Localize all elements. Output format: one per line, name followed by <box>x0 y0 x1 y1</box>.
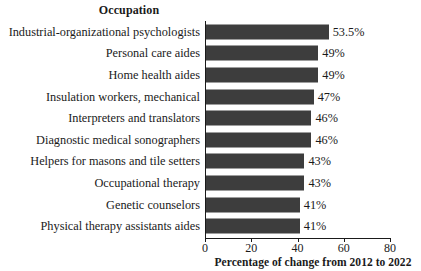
bar-track <box>205 111 311 126</box>
bar-row: Home health aides49% <box>0 64 421 86</box>
bar-row: Industrial-organizational psychologists5… <box>0 21 421 43</box>
category-label: Occupational therapy <box>94 177 200 189</box>
category-label: Genetic counselors <box>106 198 200 210</box>
bar-value-label: 41% <box>304 198 327 210</box>
category-label: Diagnostic medical sonographers <box>36 134 200 146</box>
bar <box>205 89 314 104</box>
y-axis-line <box>205 21 206 238</box>
bar-track <box>205 24 329 39</box>
bar-track <box>205 67 318 82</box>
bar-value-label: 47% <box>318 90 341 102</box>
bar-value-label: 49% <box>322 69 345 81</box>
x-axis-tick-label: 40 <box>292 242 304 254</box>
bar-track <box>205 175 304 190</box>
category-label: Physical therapy assistants aides <box>41 220 201 232</box>
category-label: Industrial-organizational psychologists <box>9 26 200 38</box>
bar-value-label: 46% <box>315 112 338 124</box>
category-label: Interpreters and translators <box>68 112 200 124</box>
bar-value-label: 43% <box>308 155 331 167</box>
bar-track <box>205 132 311 147</box>
bar-row: Personal care aides49% <box>0 43 421 65</box>
bar-row: Insulation workers, mechanical47% <box>0 86 421 108</box>
bar-value-label: 49% <box>322 47 345 59</box>
x-axis-tick-label: 0 <box>202 242 208 254</box>
bar <box>205 197 300 212</box>
bar-value-label: 46% <box>315 134 338 146</box>
column-header-occupation: Occupation <box>0 3 258 18</box>
category-label: Helpers for masons and tile setters <box>30 155 200 167</box>
bar-row: Helpers for masons and tile setters43% <box>0 151 421 173</box>
category-label: Personal care aides <box>106 47 200 59</box>
bar <box>205 111 311 126</box>
bar <box>205 46 318 61</box>
plot-area: Industrial-organizational psychologists5… <box>0 21 421 238</box>
x-axis-tick-label: 20 <box>245 242 257 254</box>
bar-row: Genetic counselors41% <box>0 194 421 216</box>
bar-row: Diagnostic medical sonographers46% <box>0 129 421 151</box>
bar <box>205 24 329 39</box>
bar-track <box>205 154 304 169</box>
bar <box>205 154 304 169</box>
x-axis-tick-label: 80 <box>384 242 396 254</box>
bar-row: Interpreters and translators46% <box>0 107 421 129</box>
bar-track <box>205 46 318 61</box>
category-label: Home health aides <box>108 69 200 81</box>
bar <box>205 67 318 82</box>
bar-chart: Occupation Industrial-organizational psy… <box>0 0 421 271</box>
bar-track <box>205 89 314 104</box>
bar-value-label: 43% <box>308 177 331 189</box>
bar-row: Occupational therapy43% <box>0 172 421 194</box>
bar <box>205 175 304 190</box>
x-axis-title: Percentage of change from 2012 to 2022 <box>205 256 421 268</box>
bar <box>205 132 311 147</box>
bar-track <box>205 197 300 212</box>
bar-track <box>205 219 300 234</box>
bar-value-label: 41% <box>304 220 327 232</box>
x-axis-tick-label: 60 <box>338 242 350 254</box>
bar <box>205 219 300 234</box>
bar-value-label: 53.5% <box>333 26 365 38</box>
category-label: Insulation workers, mechanical <box>46 90 200 102</box>
bar-row: Physical therapy assistants aides41% <box>0 215 421 237</box>
